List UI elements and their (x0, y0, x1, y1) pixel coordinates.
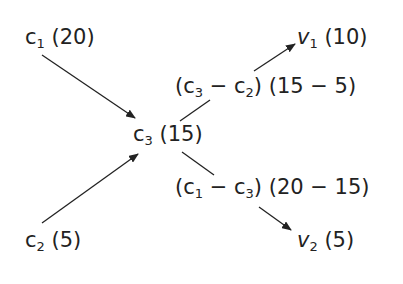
edge-upper-v1 (254, 44, 295, 71)
node-v2: v2 (5) (297, 230, 354, 253)
edge-c3-upper (180, 100, 210, 121)
node-c1: c1 (20) (25, 27, 95, 50)
edge-label-lower: (c1 − c3) (20 − 15) (175, 177, 370, 200)
edge-c1-c3 (42, 55, 135, 118)
node-c3: c3 (15) (133, 124, 203, 147)
edge-c2-c3 (42, 154, 138, 223)
edge-label-upper: (c3 − c2) (15 − 5) (175, 76, 356, 99)
edge-lower-v2 (259, 207, 291, 230)
edge-c3-lower (182, 152, 214, 175)
node-c2: c2 (5) (25, 230, 81, 253)
node-v1: v1 (10) (297, 27, 368, 50)
